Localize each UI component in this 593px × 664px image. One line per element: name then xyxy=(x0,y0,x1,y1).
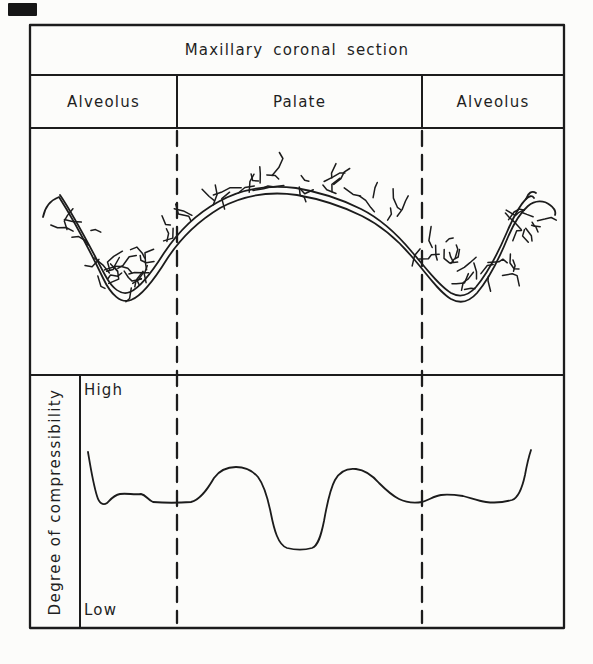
bone-hatch-stroke xyxy=(452,274,468,284)
bone-hatch-stroke xyxy=(91,230,101,233)
region-label-alveolus-right: Alveolus xyxy=(422,75,564,128)
bone-hatch-stroke xyxy=(388,208,392,220)
bone-hatch-stroke xyxy=(465,288,476,289)
y-axis-title: Degree of compressibility xyxy=(46,388,64,615)
bone-hatch-stroke xyxy=(272,153,283,176)
bone-hatch-stroke xyxy=(488,276,491,291)
y-axis-title-column: Degree of compressibility xyxy=(30,375,80,628)
bone-hatch-stroke xyxy=(251,174,258,181)
region-label-palate: Palate xyxy=(177,75,422,128)
figure-title: Maxillary coronal section xyxy=(30,25,564,75)
bone-hatch-stroke xyxy=(474,263,477,279)
bone-hatch-stroke xyxy=(457,257,476,271)
bone-hatch-stroke xyxy=(538,218,557,221)
bone-hatch-stroke xyxy=(373,183,377,198)
bone-hatch-stroke xyxy=(522,213,533,217)
bone-hatch-stroke xyxy=(267,175,279,179)
bone-hatch-stroke xyxy=(162,216,170,225)
bone-hatch-stroke xyxy=(436,245,438,260)
figure-canvas: Maxillary coronal section Alveolus Palat… xyxy=(0,0,593,664)
scan-artifact-mark xyxy=(8,3,37,16)
bone-hatch-stroke xyxy=(526,228,532,241)
bone-hatch-stroke xyxy=(118,256,137,269)
compressibility-curve xyxy=(88,450,531,550)
bone-hatch-stroke xyxy=(450,252,454,262)
bone-hatch-stroke xyxy=(140,255,154,262)
bone-hatch-stroke xyxy=(323,185,336,194)
bone-hatch-stroke xyxy=(344,188,360,196)
bone-hatch-stroke xyxy=(334,169,350,185)
y-axis-low-label: Low xyxy=(84,600,144,620)
bone-hatch-stroke xyxy=(145,249,154,269)
bone-hatch-stroke xyxy=(393,189,401,210)
y-axis-high-label: High xyxy=(84,380,144,400)
bone-hatch-stroke xyxy=(260,167,261,183)
bone-hatch-stroke xyxy=(98,276,105,289)
bone-hatch-stroke xyxy=(446,238,453,242)
hatch-group xyxy=(51,153,557,302)
bone-hatch-stroke xyxy=(513,230,522,240)
bone-hatch-stroke xyxy=(397,196,408,216)
bone-hatch-stroke xyxy=(301,176,309,182)
bone-hatch-stroke xyxy=(455,245,458,259)
region-label-alveolus-left: Alveolus xyxy=(30,75,177,128)
bone-hatch-stroke xyxy=(202,189,214,201)
bone-hatch-stroke xyxy=(429,227,432,248)
bone-hatch-stroke xyxy=(51,225,73,231)
bone-hatch-stroke xyxy=(503,274,520,286)
bone-hatch-stroke xyxy=(108,273,122,278)
